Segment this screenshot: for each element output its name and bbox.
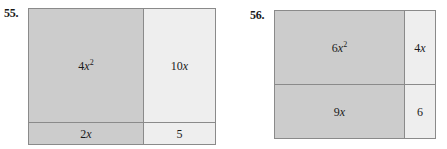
region-4x-squared-label: 4x2 [78,60,93,72]
region-4x-squared: 4x2 [28,8,144,123]
region-5: 5 [143,122,216,145]
region-6-label: 6 [417,106,423,118]
algebra-tile-area-model-55: 4x2 10x 2x 5 [28,8,216,145]
region-4x-label: 4x [414,42,425,54]
problem-number-56: 56. [250,8,264,23]
region-9x-label: 9x [334,106,345,118]
region-9x: 9x [274,84,405,139]
problem-number-55: 55. [4,6,18,21]
region-6x-squared-label: 6x2 [332,42,347,54]
algebra-tile-area-model-56: 6x2 4x 9x 6 [274,10,436,139]
region-4x: 4x [404,10,436,85]
region-2x: 2x [28,122,144,145]
region-6: 6 [404,84,436,139]
region-10x: 10x [143,8,216,123]
region-10x-label: 10x [171,60,188,72]
region-6x-squared: 6x2 [274,10,405,85]
region-2x-label: 2x [80,128,91,140]
region-5-label: 5 [177,128,183,140]
exercise-figures-page: 55. 4x2 10x 2x 5 56. 6x2 4x 9x 6 [0,0,447,149]
